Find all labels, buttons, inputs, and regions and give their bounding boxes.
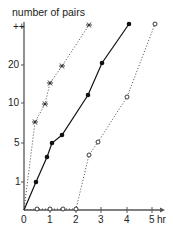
series-stars-markers [32, 23, 92, 125]
x-tick-label-1: 1 [47, 215, 53, 225]
x-tick-label-0: 0 [21, 215, 27, 225]
y-tick-label-5: 5 [14, 138, 20, 148]
y-tick-label-10: 10 [8, 98, 19, 108]
x-tick-label-2: 2 [73, 215, 79, 225]
y-tick-label-1: 1 [15, 177, 21, 187]
series-open-markers [35, 22, 157, 211]
x-axis-arrow-icon [160, 208, 165, 213]
x-tick-label-4: 4 [124, 215, 130, 225]
line-chart [0, 0, 173, 229]
x-axis-unit: hr [157, 215, 166, 225]
series-filled-line [24, 24, 129, 210]
x-tick-label-5: 5 [149, 215, 155, 225]
series-open-line [24, 24, 155, 210]
y-tick-label-top: ++ [13, 22, 25, 32]
y-axis-title: number of pairs [12, 7, 85, 17]
y-tick-label-20: 20 [8, 60, 19, 70]
x-tick-label-3: 3 [98, 215, 104, 225]
